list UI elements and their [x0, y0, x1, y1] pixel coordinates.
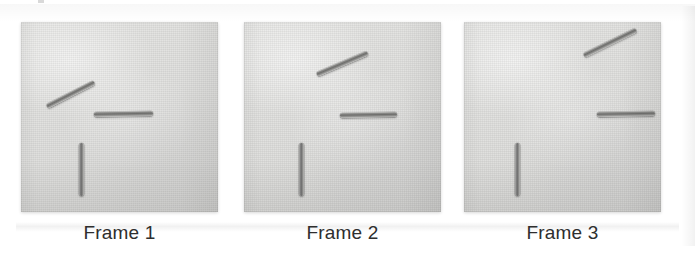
- board-3: [464, 22, 661, 212]
- diagonal-rod: [583, 28, 637, 58]
- diagonal-rod: [46, 80, 95, 109]
- board-2: [244, 22, 441, 212]
- frame-panel-3: [464, 22, 661, 212]
- frame-caption-1: Frame 1: [21, 221, 218, 245]
- vertical-rod: [299, 143, 304, 196]
- frame-caption-3: Frame 3: [464, 221, 661, 245]
- frame-panel-2: [244, 22, 441, 212]
- vertical-rod: [79, 143, 84, 196]
- diagonal-rod: [316, 51, 369, 77]
- horizontal-rod: [94, 111, 153, 117]
- page-top-shading: [0, 4, 695, 22]
- vertical-rod: [515, 143, 520, 196]
- scan-artifact: [38, 0, 44, 3]
- page-right-edge-shading: [681, 6, 695, 246]
- board-1: [21, 22, 218, 212]
- frame-panel-1: [21, 22, 218, 212]
- horizontal-rod: [340, 112, 397, 118]
- frame-sequence-figure: Frame 1Frame 2Frame 3: [0, 0, 695, 257]
- horizontal-rod: [597, 111, 655, 117]
- frame-caption-2: Frame 2: [244, 221, 441, 245]
